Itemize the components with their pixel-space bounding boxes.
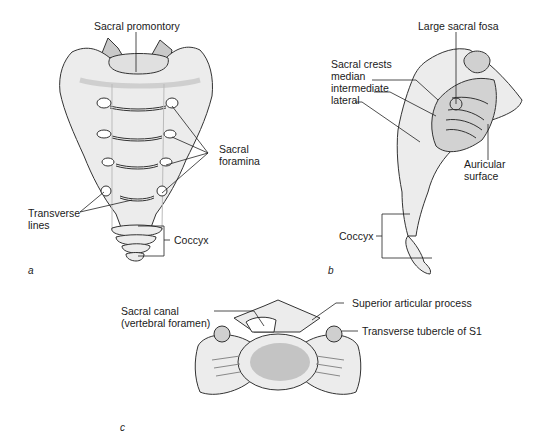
- panel-letter-c: c: [120, 422, 125, 432]
- panel-letter-b: b: [328, 265, 334, 276]
- label-sacral-foramina-line2: foramina: [219, 155, 260, 167]
- label-auricular-surface-line1: Auricular: [464, 158, 505, 170]
- panel-c-sacrum-superior: [195, 300, 361, 394]
- label-sacral-foramina-line1: Sacral: [219, 143, 249, 155]
- label-transverse-lines-line1: Transverse: [28, 207, 80, 219]
- label-sacral-crests: Sacral crests: [331, 58, 392, 70]
- label-auricular-surface-line2: surface: [464, 170, 498, 182]
- label-intermediate-crest: intermediate: [331, 82, 389, 94]
- label-sacral-canal-line1: Sacral canal: [121, 305, 179, 317]
- label-transverse-lines-line2: lines: [28, 219, 50, 231]
- label-large-sacral-fosa: Large sacral fosa: [418, 20, 499, 32]
- label-median-crest: median: [331, 70, 365, 82]
- sacrum-illustration: [0, 0, 552, 432]
- label-superior-articular-process: Superior articular process: [352, 297, 472, 309]
- label-coccyx-b: Coccyx: [339, 230, 373, 242]
- label-sacral-canal-line2: (vertebral foramen): [121, 317, 210, 329]
- panel-letter-a: a: [28, 265, 34, 276]
- label-sacral-promontory: Sacral promontory: [94, 20, 180, 32]
- label-coccyx-a: Coccyx: [174, 234, 208, 246]
- label-transverse-tubercle-s1: Transverse tubercle of S1: [362, 325, 482, 337]
- label-lateral-crest: lateral: [331, 94, 360, 106]
